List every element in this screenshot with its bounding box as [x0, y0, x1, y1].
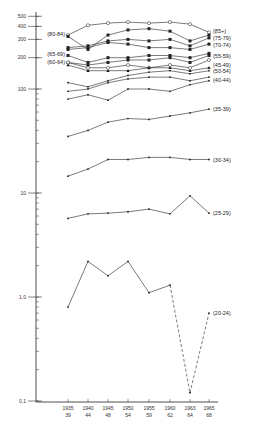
- x-tick-label-top: 1960: [164, 405, 175, 411]
- data-point: [87, 260, 89, 262]
- data-point: [127, 118, 129, 120]
- data-point: [189, 56, 192, 59]
- data-point: [148, 71, 150, 73]
- data-point: [169, 30, 172, 33]
- series-labels: (85+)(75-79)(70-74)(55-59)(45-49)(50-54)…: [47, 28, 231, 316]
- x-tick-label-top: 1955: [143, 405, 154, 411]
- data-point: [86, 24, 89, 27]
- data-point: [127, 75, 129, 77]
- series-label-right: (85+): [213, 28, 226, 34]
- data-point: [87, 129, 89, 131]
- data-point: [87, 213, 89, 215]
- data-point: [207, 31, 210, 34]
- series-label-right: (50-54): [213, 68, 231, 74]
- x-tick-label-bottom: 54: [125, 412, 131, 418]
- data-point: [169, 156, 171, 158]
- data-point: [127, 38, 130, 41]
- data-point: [148, 76, 150, 78]
- data-point: [107, 275, 109, 277]
- data-point: [127, 159, 129, 161]
- chart-series: [66, 20, 210, 393]
- data-point: [87, 46, 90, 49]
- data-point: [87, 61, 90, 64]
- chart-axes: 500400300200100101,00,119353919404419454…: [18, 12, 218, 418]
- data-point: [107, 82, 109, 84]
- data-point: [207, 58, 210, 61]
- data-point: [87, 94, 89, 96]
- data-point: [189, 112, 191, 114]
- data-point: [107, 99, 109, 101]
- data-point: [189, 61, 192, 64]
- data-point: [67, 90, 69, 92]
- series-label-right: (40-44): [213, 77, 231, 83]
- line-chart: 500400300200100101,00,119353919404419454…: [0, 0, 253, 426]
- data-point: [67, 54, 70, 57]
- series-line: [67, 54, 211, 67]
- y-tick-label: 300: [18, 36, 27, 42]
- data-point: [169, 76, 171, 78]
- data-point: [208, 54, 211, 57]
- data-point: [208, 212, 210, 214]
- data-point: [67, 306, 69, 308]
- data-point: [189, 44, 192, 47]
- data-point: [107, 34, 110, 37]
- data-point: [147, 22, 150, 25]
- data-point: [67, 82, 69, 84]
- data-point: [148, 39, 151, 42]
- data-point: [148, 292, 150, 294]
- data-point: [208, 159, 210, 161]
- data-point: [127, 260, 129, 262]
- data-point: [189, 80, 191, 82]
- series-line: [67, 195, 210, 219]
- data-point: [168, 20, 171, 23]
- data-point: [169, 56, 172, 59]
- data-point: [189, 73, 191, 75]
- data-point: [208, 34, 211, 37]
- data-point: [127, 78, 129, 80]
- data-point: [87, 86, 89, 88]
- x-tick-label-top: 1945: [102, 405, 113, 411]
- data-point: [188, 23, 191, 26]
- y-tick-label: 0,1: [19, 398, 26, 404]
- data-point: [127, 59, 130, 62]
- data-point: [107, 80, 109, 82]
- series-line: [67, 80, 210, 101]
- x-tick-label-top: 1963: [184, 405, 195, 411]
- x-tick-label-bottom: 48: [105, 412, 111, 418]
- series-label-right: (25-29): [213, 210, 231, 216]
- data-point: [106, 22, 109, 25]
- data-point: [208, 108, 210, 110]
- series-label-right: (75-79): [213, 35, 231, 41]
- data-point: [107, 56, 110, 59]
- data-point: [107, 212, 109, 214]
- x-tick-label-bottom: 39: [65, 412, 71, 418]
- data-point: [189, 48, 192, 51]
- y-tick-label: 10: [20, 190, 26, 196]
- x-tick-label-top: 1940: [82, 405, 93, 411]
- data-point: [67, 217, 69, 219]
- series-label-right: (30-34): [213, 157, 231, 163]
- data-point: [107, 159, 109, 161]
- data-point: [208, 43, 211, 46]
- data-point: [148, 27, 151, 30]
- data-point: [107, 61, 110, 64]
- data-point: [126, 20, 129, 23]
- x-tick-label-bottom: 64: [187, 412, 193, 418]
- series-label-left: (60-64): [47, 59, 65, 65]
- y-tick-label: 1,0: [19, 294, 26, 300]
- data-point: [67, 35, 70, 38]
- data-point: [67, 136, 69, 138]
- data-point: [148, 88, 150, 90]
- x-tick-label-top: 1965: [203, 405, 214, 411]
- data-point: [127, 28, 130, 31]
- data-point: [67, 98, 69, 100]
- data-point: [169, 115, 171, 117]
- series-label-right: (35-39): [213, 106, 231, 112]
- x-tick-label-bottom: 44: [85, 412, 91, 418]
- data-point: [208, 70, 210, 72]
- data-point: [148, 119, 150, 121]
- data-point: [148, 59, 151, 62]
- data-point: [169, 70, 171, 72]
- series-line: [67, 76, 210, 92]
- data-point: [148, 54, 151, 57]
